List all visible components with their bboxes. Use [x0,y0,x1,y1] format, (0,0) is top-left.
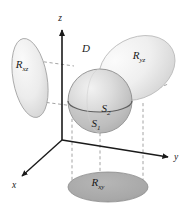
y-axis-label: y [173,152,179,162]
projection-xz-ellipse [6,36,53,121]
projection-xy-ellipse [68,172,148,202]
projection-xz-group: Rxz [6,36,53,121]
x-axis-line [22,140,62,176]
projection-xy-group: Rxy [68,172,148,202]
z-axis-label: z [57,13,62,23]
solid-region-D-label: D [81,42,90,54]
x-axis-label: x [11,180,17,190]
3d-solid-region-diagram: Rxy z y x Ryz Rxz [0,0,188,211]
figure-container: Rxy z y x Ryz Rxz [0,0,188,211]
y-axis-line [62,140,168,157]
